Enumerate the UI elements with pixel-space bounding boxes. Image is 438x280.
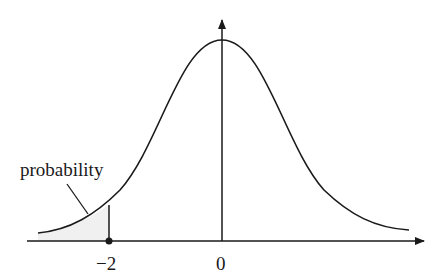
bell-curve	[38, 40, 409, 233]
label-pointer-line	[67, 184, 88, 214]
tick-label-neg2: −2	[96, 254, 116, 273]
probability-label: probability	[20, 160, 103, 179]
tick-label-zero: 0	[216, 254, 226, 273]
normal-curve-diagram	[0, 0, 438, 280]
point-neg2	[106, 238, 113, 245]
